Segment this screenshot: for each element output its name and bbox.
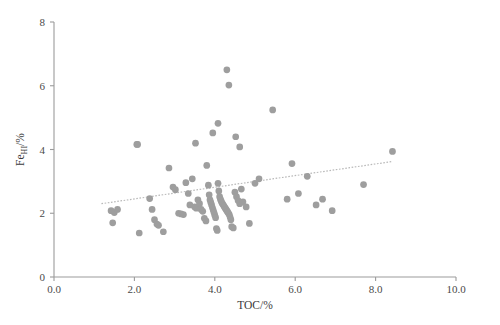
y-tick-label: 2 [40, 207, 46, 219]
data-point [295, 190, 302, 197]
data-point [114, 206, 121, 213]
data-point [180, 211, 187, 218]
x-tick-label: 6.0 [288, 283, 302, 295]
data-point [109, 219, 116, 226]
data-point [236, 144, 243, 151]
scatter-plot: 0.02.04.06.08.010.002468TOC/%FeHI/% [0, 0, 500, 325]
data-point [269, 107, 276, 114]
data-point [172, 186, 179, 193]
data-point [389, 148, 396, 155]
data-points [108, 66, 396, 236]
data-point [319, 196, 326, 203]
data-point [155, 222, 162, 229]
x-axis-title: TOC/% [237, 299, 273, 311]
data-point [136, 230, 143, 237]
data-point [238, 186, 245, 193]
data-point [226, 82, 233, 89]
data-point [166, 165, 173, 172]
data-point [149, 206, 156, 213]
axis-lines [54, 22, 456, 277]
x-tick-label: 8.0 [369, 283, 383, 295]
data-point [256, 175, 263, 182]
data-point [212, 214, 219, 221]
x-tick-label: 4.0 [208, 283, 222, 295]
data-point [160, 228, 167, 235]
trendline [101, 162, 391, 204]
data-point [289, 160, 296, 167]
data-point [203, 162, 210, 169]
data-point [185, 190, 192, 197]
data-point [246, 220, 253, 227]
x-tick-label: 0.0 [47, 283, 61, 295]
y-tick-label: 4 [40, 144, 46, 156]
data-point [215, 120, 222, 127]
data-point [313, 202, 320, 209]
x-tick-label: 2.0 [128, 283, 142, 295]
data-point [243, 204, 250, 211]
y-tick-label: 8 [40, 16, 46, 28]
data-point [205, 182, 212, 189]
data-point [230, 225, 237, 232]
data-point [329, 207, 336, 214]
data-point [360, 181, 367, 188]
data-point [133, 141, 140, 148]
data-point [146, 195, 153, 202]
data-point [183, 179, 190, 186]
data-point [189, 175, 196, 182]
data-point [196, 200, 203, 207]
data-point [214, 227, 221, 234]
data-point [199, 208, 206, 215]
y-tick-label: 6 [40, 80, 46, 92]
data-point [192, 140, 199, 147]
data-point [215, 180, 222, 187]
axis-labels: 0.02.04.06.08.010.002468TOC/%FeHI/% [14, 16, 466, 311]
y-axis-title: FeHI/% [14, 133, 29, 166]
data-point [304, 173, 311, 180]
data-point [232, 133, 239, 140]
data-point [209, 130, 216, 137]
data-point [203, 218, 210, 225]
x-tick-label: 10.0 [446, 283, 466, 295]
data-point [284, 196, 291, 203]
data-point [224, 66, 231, 73]
chart-figure: 0.02.04.06.08.010.002468TOC/%FeHI/% [0, 0, 500, 325]
data-point [228, 216, 235, 223]
y-tick-label: 0 [40, 271, 46, 283]
data-point [215, 188, 222, 195]
trendline-path [101, 162, 391, 204]
